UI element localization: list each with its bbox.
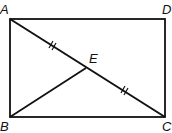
geometry-diagram: A D B C E [0, 0, 172, 133]
label-a: A [0, 2, 9, 17]
segment-be [10, 68, 86, 117]
label-c: C [162, 119, 172, 133]
label-d: D [162, 2, 171, 17]
label-b: B [0, 119, 9, 133]
label-e: E [89, 51, 98, 66]
